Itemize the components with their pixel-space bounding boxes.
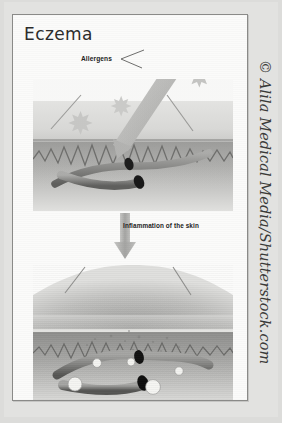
copyright-watermark: © Alila Medical Media/Shutterstock.com xyxy=(250,0,280,423)
panel-healthy-skin-exposure xyxy=(33,79,233,211)
label-inflammation: Inflammation of the skin xyxy=(123,222,199,229)
screenshot-root: Eczema xyxy=(0,0,282,423)
copyright-text: © Alila Medical Media/Shutterstock.com xyxy=(257,59,273,364)
panel-top-illustration xyxy=(33,79,233,211)
figure-title: Eczema xyxy=(24,24,93,44)
leader-line xyxy=(121,59,142,68)
panel-bottom-illustration xyxy=(33,265,233,400)
allergen-particle xyxy=(188,79,211,88)
flow-down-arrow xyxy=(113,213,137,261)
immune-cell xyxy=(146,380,161,395)
immune-cell xyxy=(127,358,135,366)
label-allergens: Allergens xyxy=(81,55,112,62)
immune-cell xyxy=(93,359,102,368)
leader-line xyxy=(121,50,144,59)
immune-cell xyxy=(175,367,183,375)
panel-inflamed-skin xyxy=(33,265,233,400)
figure-frame: Eczema xyxy=(12,14,248,401)
immune-cell xyxy=(68,377,82,391)
dermo-epidermal-band xyxy=(33,329,233,333)
